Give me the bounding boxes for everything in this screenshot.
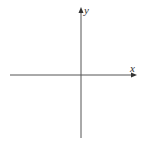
coordinate-axes: y x [0,0,145,143]
x-axis-label: x [129,62,135,74]
y-axis-label: y [83,4,89,16]
y-axis-arrow-icon [79,7,84,13]
